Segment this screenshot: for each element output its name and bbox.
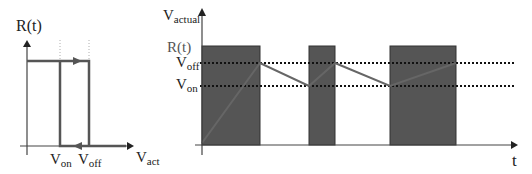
voff-sub: off — [89, 157, 102, 169]
left-y-arrow-icon — [23, 40, 31, 47]
von-main: V — [50, 151, 61, 167]
left-y-label: R(t) — [16, 18, 42, 34]
voff-main: V — [78, 151, 89, 167]
left-hysteresis-plot — [20, 40, 134, 155]
von-label: Von — [176, 77, 198, 92]
right-y-label: Vactual — [163, 8, 200, 23]
hysteresis-diagram — [0, 0, 532, 174]
right-timing-plot — [195, 8, 518, 155]
pulse-2 — [309, 46, 335, 145]
left-tick-voff: Voff — [78, 152, 101, 167]
pulse-3 — [390, 46, 456, 145]
right-x-arrow-icon — [511, 141, 518, 149]
left-tick-von: Von — [50, 152, 72, 167]
von-sub: on — [61, 157, 72, 169]
vact-main: V — [136, 149, 147, 165]
voff-label-sub: off — [187, 60, 200, 72]
left-x-label: Vact — [136, 150, 160, 165]
t-label: t — [512, 152, 517, 169]
hysteresis-lower — [60, 61, 126, 146]
left-arrow-icon — [73, 142, 82, 150]
voff-label-main: V — [176, 54, 187, 70]
right-arrow-icon — [73, 57, 82, 65]
hysteresis-upper — [27, 61, 89, 146]
r-label: R(t) — [167, 40, 191, 55]
voff-label: Voff — [176, 55, 199, 70]
left-x-arrow-icon — [127, 142, 134, 150]
vact-sub: act — [147, 155, 160, 167]
von-label-sub: on — [187, 82, 198, 94]
vactual-sub: actual — [174, 13, 200, 25]
von-label-main: V — [176, 76, 187, 92]
vactual-main: V — [163, 7, 174, 23]
